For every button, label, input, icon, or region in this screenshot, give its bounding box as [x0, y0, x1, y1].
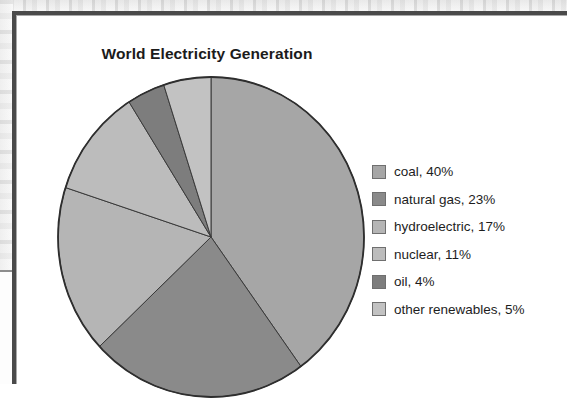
legend-swatch-other-renewables: [372, 302, 386, 316]
legend-swatch-oil: [372, 275, 386, 289]
chart-frame: World Electricity Generation coal, 40% n…: [12, 11, 567, 384]
legend-swatch-hydroelectric: [372, 220, 386, 234]
chart-panel: World Electricity Generation coal, 40% n…: [16, 15, 567, 384]
legend-item-hydroelectric[interactable]: hydroelectric, 17%: [372, 213, 567, 241]
legend-item-other-renewables[interactable]: other renewables, 5%: [372, 296, 567, 324]
legend-item-oil[interactable]: oil, 4%: [372, 268, 567, 296]
legend-item-nuclear[interactable]: nuclear, 11%: [372, 241, 567, 269]
legend-swatch-coal: [372, 165, 386, 179]
legend-swatch-nuclear: [372, 247, 386, 261]
legend-label-coal: coal, 40%: [394, 165, 453, 179]
pie-slice-group: [58, 77, 364, 397]
pie-chart-svg: [55, 74, 367, 400]
legend-label-natural-gas: natural gas, 23%: [394, 193, 495, 207]
chart-title: World Electricity Generation: [17, 45, 397, 63]
legend-label-nuclear: nuclear, 11%: [394, 248, 471, 262]
legend-label-hydroelectric: hydroelectric, 17%: [394, 220, 505, 234]
legend-label-other-renewables: other renewables, 5%: [394, 303, 525, 317]
legend-item-coal[interactable]: coal, 40%: [372, 158, 567, 186]
legend: coal, 40% natural gas, 23% hydroelectric…: [372, 158, 567, 323]
pie-chart: [55, 74, 367, 400]
legend-label-oil: oil, 4%: [394, 275, 435, 289]
legend-swatch-natural-gas: [372, 192, 386, 206]
legend-item-natural-gas[interactable]: natural gas, 23%: [372, 186, 567, 214]
